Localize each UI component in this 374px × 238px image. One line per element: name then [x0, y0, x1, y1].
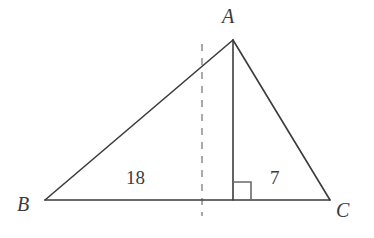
vertex-label-a: A [222, 6, 234, 26]
triangle-side-ac [233, 40, 330, 200]
segment-length-label-right: 7 [270, 168, 280, 187]
segment-length-label-left: 18 [126, 168, 145, 187]
vertex-label-c: C [336, 200, 349, 220]
right-angle-mark [233, 182, 251, 200]
geometry-canvas [0, 0, 374, 238]
vertex-label-b: B [17, 194, 29, 214]
geometry-figure: A B C 18 7 [0, 0, 374, 238]
